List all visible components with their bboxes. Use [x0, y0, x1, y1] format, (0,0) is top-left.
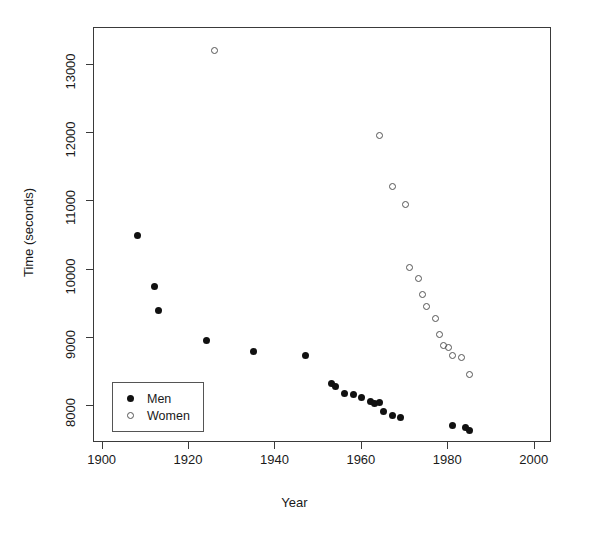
data-point-women	[445, 344, 452, 351]
y-tick-mark	[86, 132, 93, 133]
x-tick-mark	[188, 442, 189, 449]
data-point-men	[151, 283, 158, 290]
data-point-men	[358, 394, 365, 401]
legend: Men Women	[112, 382, 204, 432]
data-point-men	[332, 383, 339, 390]
data-point-men	[203, 337, 210, 344]
legend-label-women: Women	[147, 409, 190, 423]
y-tick-mark	[86, 64, 93, 65]
data-point-women	[466, 371, 473, 378]
filled-circle-icon	[122, 395, 138, 402]
data-point-men	[155, 307, 162, 314]
x-axis-title: Year	[0, 495, 589, 510]
plot-area	[93, 27, 551, 442]
data-point-men	[380, 408, 387, 415]
data-point-women	[389, 183, 396, 190]
data-point-men	[134, 232, 141, 239]
y-axis-title: Time (seconds)	[21, 163, 36, 303]
x-tick-label: 1900	[72, 452, 132, 467]
y-tick-label: 12000	[63, 112, 78, 168]
y-tick-label: 10000	[63, 248, 78, 304]
data-point-men	[302, 352, 309, 359]
x-tick-label: 1960	[331, 452, 391, 467]
x-tick-mark	[534, 442, 535, 449]
legend-entry-men: Men	[122, 390, 190, 407]
data-point-women	[419, 291, 426, 298]
data-point-men	[350, 391, 357, 398]
y-tick-mark	[86, 269, 93, 270]
y-tick-label: 13000	[63, 44, 78, 100]
x-tick-label: 1920	[158, 452, 218, 467]
data-point-men	[389, 412, 396, 419]
x-tick-label: 1980	[417, 452, 477, 467]
x-tick-label: 1940	[244, 452, 304, 467]
scatter-plot-figure: Year Time (seconds) Men Women 1900192019…	[0, 0, 589, 541]
data-point-women	[458, 354, 465, 361]
y-tick-label: 8000	[63, 384, 78, 440]
data-point-women	[415, 275, 422, 282]
data-point-women	[211, 47, 218, 54]
legend-label-men: Men	[147, 392, 171, 406]
data-point-women	[423, 303, 430, 310]
data-point-women	[406, 264, 413, 271]
data-point-women	[449, 352, 456, 359]
legend-entry-women: Women	[122, 407, 190, 424]
x-tick-label: 2000	[504, 452, 564, 467]
x-tick-mark	[274, 442, 275, 449]
data-point-men	[250, 348, 257, 355]
data-point-men	[397, 414, 404, 421]
data-point-men	[341, 390, 348, 397]
x-tick-mark	[447, 442, 448, 449]
y-tick-label: 11000	[63, 180, 78, 236]
data-point-men	[449, 422, 456, 429]
y-tick-mark	[86, 200, 93, 201]
data-point-women	[402, 201, 409, 208]
y-tick-mark	[86, 405, 93, 406]
y-tick-mark	[86, 337, 93, 338]
data-point-women	[376, 132, 383, 139]
x-tick-mark	[361, 442, 362, 449]
x-tick-mark	[102, 442, 103, 449]
open-circle-icon	[122, 412, 138, 419]
data-point-men	[466, 427, 473, 434]
data-point-women	[432, 315, 439, 322]
data-point-women	[436, 331, 443, 338]
y-tick-label: 9000	[63, 316, 78, 372]
data-point-men	[376, 399, 383, 406]
